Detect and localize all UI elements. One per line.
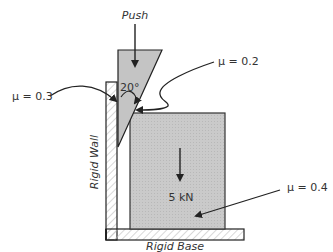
- rigid-base: [106, 229, 244, 240]
- wall-label: Rigid Wall: [88, 135, 101, 189]
- friction-wedge-block: μ = 0.2: [218, 55, 259, 68]
- base-label: Rigid Base: [146, 240, 204, 252]
- load-label: 5 kN: [168, 191, 193, 204]
- push-label: Push: [122, 9, 148, 22]
- rigid-wall: [106, 82, 117, 240]
- wedge-friction-diagram: Push 20° μ = 0.3 μ = 0.2 5 kN μ = 0.4 Ri…: [0, 0, 333, 252]
- angle-label: 20°: [120, 81, 140, 94]
- friction-wall-wedge: μ = 0.3: [12, 90, 53, 103]
- friction-block-base: μ = 0.4: [287, 181, 328, 194]
